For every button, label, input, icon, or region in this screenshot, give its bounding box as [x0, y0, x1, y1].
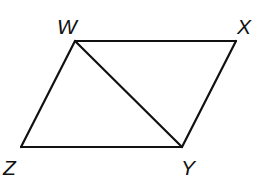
vertex-label-z: Z	[2, 156, 17, 178]
diagonal-wy	[75, 41, 182, 147]
parallelogram-diagram: W X Y Z	[0, 0, 263, 178]
edge-zw	[21, 41, 75, 147]
edge-xy	[182, 41, 236, 147]
vertex-label-y: Y	[181, 156, 197, 178]
vertex-label-x: X	[236, 15, 252, 38]
vertex-label-w: W	[57, 15, 79, 38]
